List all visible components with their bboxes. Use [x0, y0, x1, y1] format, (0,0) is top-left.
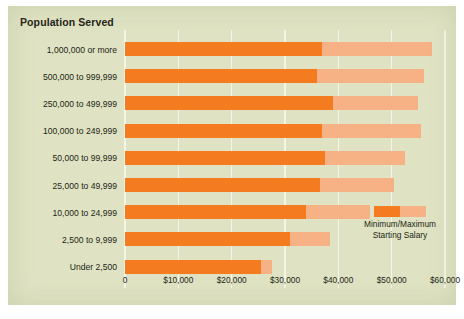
bar-segment-minimum — [125, 205, 306, 219]
legend: Minimum/Maximum Starting Salary — [341, 206, 459, 240]
category-label: 50,000 to 99,999 — [5, 153, 117, 163]
x-axis-tick-label: $10,000 — [163, 275, 193, 285]
category-label: 250,000 to 499,999 — [5, 99, 117, 109]
bar-segment-maximum — [322, 42, 431, 56]
bar-segment-maximum — [290, 232, 330, 246]
x-axis-tick-label: $60,000 — [430, 275, 460, 285]
bar-segment-maximum — [333, 96, 418, 110]
plot-area: 1,000,000 or more500,000 to 999,999250,0… — [125, 30, 445, 288]
legend-label: Minimum/Maximum Starting Salary — [341, 219, 459, 240]
population-served-salary-chart: Population Served 1,000,000 or more500,0… — [0, 0, 464, 319]
bar-segment-maximum — [320, 178, 395, 192]
legend-swatch — [374, 206, 426, 217]
x-axis-tick-label: 0 — [123, 275, 128, 285]
page-title: Population Served — [20, 16, 114, 28]
bar-row — [125, 178, 445, 192]
category-label: 2,500 to 9,999 — [5, 235, 117, 245]
bar-row — [125, 151, 445, 165]
bar-segment-maximum — [322, 124, 421, 138]
x-axis-tick-label: $20,000 — [217, 275, 247, 285]
category-label: 25,000 to 49,999 — [5, 181, 117, 191]
category-label: 100,000 to 249,999 — [5, 126, 117, 136]
maximum-salary-swatch — [400, 206, 426, 217]
bar-segment-minimum — [125, 69, 317, 83]
bar-segment-minimum — [125, 151, 325, 165]
legend-label-line2: Starting Salary — [341, 230, 459, 241]
bar-segment-maximum — [261, 260, 272, 274]
bar-row — [125, 260, 445, 274]
chart-panel: Population Served 1,000,000 or more500,0… — [8, 6, 456, 305]
bar-segment-minimum — [125, 124, 322, 138]
bar-segment-minimum — [125, 232, 290, 246]
x-axis-tick-label: $40,000 — [323, 275, 353, 285]
bar-segment-minimum — [125, 260, 261, 274]
legend-label-line1: Minimum/Maximum — [341, 219, 459, 230]
x-axis-tick-label: $50,000 — [377, 275, 407, 285]
bar-row — [125, 69, 445, 83]
bar-row — [125, 42, 445, 56]
bar-segment-minimum — [125, 42, 322, 56]
bar-segment-maximum — [325, 151, 405, 165]
bar-segment-minimum — [125, 96, 333, 110]
minimum-salary-swatch — [374, 206, 400, 217]
category-label: 1,000,000 or more — [5, 45, 117, 55]
category-label: 10,000 to 24,999 — [5, 208, 117, 218]
x-axis-tick-label: $30,000 — [270, 275, 300, 285]
category-label: Under 2,500 — [5, 262, 117, 272]
category-label: 500,000 to 999,999 — [5, 72, 117, 82]
bar-row — [125, 124, 445, 138]
bar-segment-minimum — [125, 178, 320, 192]
bar-segment-maximum — [317, 69, 424, 83]
bar-row — [125, 96, 445, 110]
